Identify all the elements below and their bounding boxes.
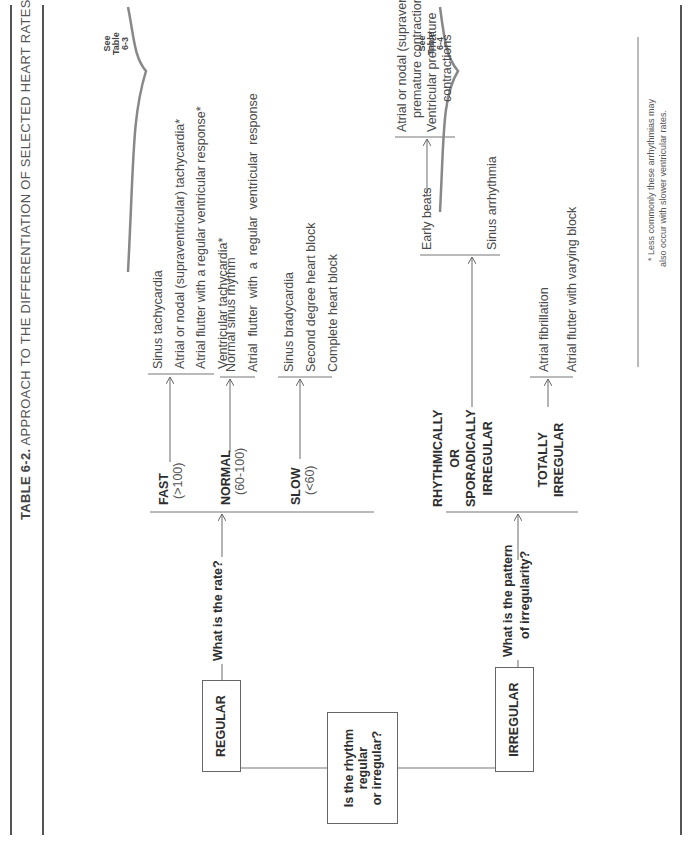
early-beats-label: Early beats bbox=[420, 187, 434, 250]
outcome-complete-heart-block: Complete heart block bbox=[322, 223, 344, 372]
regular-label: REGULAR bbox=[215, 695, 228, 757]
outcome-sinus-tachycardia: Sinus tachycardia bbox=[148, 106, 170, 369]
regular-box: REGULAR bbox=[202, 680, 241, 772]
footnote-line2: also occur with slower ventricular rates… bbox=[657, 99, 669, 267]
rhythmically-irregular-branch: RHYTHMICALLY OR SPORADICALLY IRREGULAR bbox=[430, 410, 496, 507]
sinus-arrhythmia-outcome: Sinus arrhythmia bbox=[485, 156, 499, 250]
footnote: * Less commonly these arrhythmias may al… bbox=[645, 99, 669, 267]
irregularity-question-line2: of irregularity? bbox=[517, 544, 534, 657]
fast-range: (>100) bbox=[171, 463, 185, 505]
outcome-sinus-bradycardia: Sinus bradycardia bbox=[278, 223, 300, 372]
irregularity-question: What is the pattern of irregularity? bbox=[500, 544, 534, 657]
footnote-line1: * Less commonly these arrhythmias may bbox=[645, 99, 657, 267]
root-question-box: Is the rhythm regular or irregular? bbox=[327, 712, 398, 824]
totally-irregular-outcomes: Atrial fibrillation Atrial flutter with … bbox=[530, 207, 586, 372]
outcome-apc-line1: Atrial or nodal (supraventricular) bbox=[395, 0, 410, 132]
slow-range: (<60) bbox=[303, 465, 317, 505]
totally-label-line1: TOTALLY bbox=[535, 423, 551, 497]
table-ref: 6-4 bbox=[436, 32, 445, 55]
totally-label-line2: IRREGULAR bbox=[551, 423, 567, 497]
rhythmic-label-line1: RHYTHMICALLY bbox=[430, 410, 447, 507]
rate-question: What is the rate? bbox=[212, 560, 225, 661]
normal-range: (60-100) bbox=[233, 448, 247, 505]
slow-label: SLOW bbox=[290, 465, 303, 505]
outcome-normal-sinus-rhythm: Normal sinus rhythm bbox=[220, 93, 242, 372]
outcome-atrial-flutter-normal: Atrial flutter with a regular ventricula… bbox=[242, 93, 264, 372]
brace-regular bbox=[128, 7, 146, 272]
outcome-pvc-line2: contractions bbox=[440, 0, 455, 132]
slow-branch: SLOW (<60) bbox=[290, 465, 317, 505]
normal-outcomes: Normal sinus rhythm Atrial flutter with … bbox=[220, 93, 264, 372]
rhythmic-label-line2: OR bbox=[447, 410, 464, 507]
rotated-table-page: TABLE 6-2. APPROACH TO THE DIFFERENTIATI… bbox=[0, 0, 693, 857]
early-beats-outcomes: Atrial or nodal (supraventricular) prema… bbox=[395, 0, 455, 132]
normal-label: NORMAL bbox=[220, 448, 233, 505]
outcome-svt: Atrial or nodal (supraventricular) tachy… bbox=[170, 106, 192, 369]
see-table-6-3: See Table 6-3 bbox=[103, 32, 130, 55]
rhythmic-label-line4: IRREGULAR bbox=[480, 410, 497, 507]
irregular-label: IRREGULAR bbox=[508, 682, 521, 756]
slow-outcomes: Sinus bradycardia Second degree heart bl… bbox=[278, 223, 344, 372]
outcome-atrial-flutter-regular: Atrial flutter with a regular ventricula… bbox=[191, 106, 213, 369]
root-question-line3: or irregular? bbox=[370, 729, 384, 808]
root-question-line2: regular bbox=[356, 729, 370, 808]
irregularity-question-line1: What is the pattern bbox=[500, 544, 517, 657]
outcome-atrial-flutter-varying: Atrial flutter with varying block bbox=[558, 207, 586, 372]
irregular-box: IRREGULAR bbox=[495, 667, 534, 772]
totally-irregular-branch: TOTALLY IRREGULAR bbox=[535, 423, 567, 497]
normal-branch: NORMAL (60-100) bbox=[220, 448, 247, 505]
root-question-line1: Is the rhythm bbox=[342, 729, 356, 808]
outcome-second-degree-block: Second degree heart block bbox=[300, 223, 322, 372]
see-table-6-4: See Table 6-4 bbox=[418, 32, 445, 55]
table-ref: 6-3 bbox=[121, 32, 130, 55]
outcome-pvc-line1: Ventricular premature bbox=[425, 0, 440, 132]
fast-branch: FAST (>100) bbox=[158, 463, 185, 505]
fast-label: FAST bbox=[158, 463, 171, 505]
rhythmic-label-line3: SPORADICALLY bbox=[463, 410, 480, 507]
outcome-atrial-fibrillation: Atrial fibrillation bbox=[530, 207, 558, 372]
outcome-apc-line2: premature contractions bbox=[410, 0, 425, 132]
